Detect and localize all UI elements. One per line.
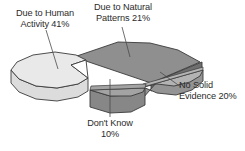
pie-label-natural-patterns: Due to Natural Patterns 21%: [86, 2, 160, 24]
pie-label-human-activity: Due to Human Activity 41%: [6, 8, 84, 30]
pie-label-no-solid-evidence-line1: No Solid: [179, 80, 243, 91]
pie-chart-figure: Due to Human Activity 41% Due to Natural…: [0, 0, 245, 151]
pie-label-no-solid-evidence-line2: Evidence 20%: [179, 91, 243, 102]
pie-slice-dont-know[interactable]: [90, 84, 146, 113]
pie-label-natural-patterns-line1: Due to Natural: [86, 2, 160, 13]
pie-label-human-activity-line2: Activity 41%: [6, 19, 84, 30]
pie-label-human-activity-line1: Due to Human: [6, 8, 84, 19]
pie-label-dont-know-line2: 10%: [72, 129, 148, 140]
pie-label-dont-know-line1: Don't Know: [72, 118, 148, 129]
pie-slice-human-activity[interactable]: [11, 52, 88, 101]
pie-label-natural-patterns-line2: Patterns 21%: [86, 13, 160, 24]
pie-label-no-solid-evidence: No Solid Evidence 20%: [179, 80, 243, 102]
pie-label-dont-know: Don't Know 10%: [72, 118, 148, 140]
